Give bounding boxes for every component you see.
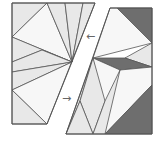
puzzle-diagram: ←→	[0, 0, 158, 143]
arrow-left-icon: ←	[86, 30, 95, 43]
diagram-canvas: ←→	[0, 0, 158, 143]
arrow-right-icon: →	[62, 92, 71, 105]
